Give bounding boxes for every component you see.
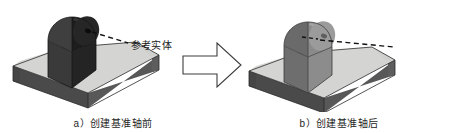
model-after [226, 0, 452, 112]
caption-panel-before: a）创建基准轴前 [0, 115, 226, 130]
panel-after-creating-datum-axis: 基准轴1 创建此轴线 [226, 0, 452, 133]
figure-datum-axis-comparison: 参考实体 [0, 0, 452, 133]
transition-arrow [181, 40, 243, 90]
caption-panel-after: b）创建基准轴后 [226, 115, 452, 130]
right-arrow-icon [181, 40, 243, 90]
annotation-reference-entity: 参考实体 [131, 37, 172, 52]
